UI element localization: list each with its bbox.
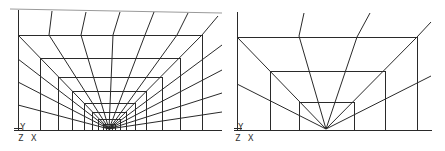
- z-axis-label: Z: [18, 134, 23, 143]
- y-axis-label: Y: [238, 123, 243, 132]
- z-axis-label: Z: [235, 134, 240, 143]
- left-mesh-drawing: [0, 0, 222, 151]
- y-axis-label: Y: [20, 123, 25, 132]
- right-mesh-drawing: [222, 0, 445, 151]
- left-mesh-panel: Y Z X: [0, 0, 222, 151]
- x-axis-label: X: [31, 134, 36, 143]
- x-axis-label: X: [248, 134, 253, 143]
- right-mesh-panel: Y Z X: [222, 0, 445, 151]
